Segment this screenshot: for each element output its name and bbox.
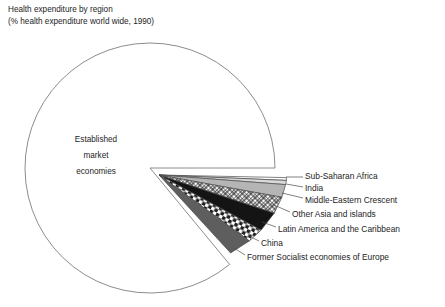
leader-line-middle-eastern-crescent <box>282 193 303 198</box>
legend-label-former-socialist-economies-of-europe: Former Socialist economies of Europe <box>247 252 389 262</box>
legend-label-china: China <box>261 238 283 248</box>
legend-label-latin-america-and-the-caribbean: Latin America and the Caribbean <box>278 224 400 234</box>
main-slice-label-line2: market <box>83 151 109 160</box>
legend-label-middle-eastern-crescent: Middle-Eastern Crescent <box>305 195 398 205</box>
pie-chart-svg: Established market economies Sub-Saharan… <box>0 0 445 307</box>
main-slice-label-line1: Established <box>75 135 118 144</box>
slice-established-market-economies <box>25 43 275 293</box>
legend-label-india: India <box>305 183 324 193</box>
chart-figure: Health expenditure by region (% health e… <box>0 0 445 307</box>
main-slice-label-line3: economies <box>76 167 116 176</box>
leader-line-india <box>286 184 303 187</box>
leader-line-former-socialist-economies-of-europe <box>234 248 245 255</box>
legend-label-sub-saharan-africa: Sub-Saharan Africa <box>305 171 378 181</box>
legend-label-other-asia-and-islands: Other Asia and islands <box>292 209 376 219</box>
